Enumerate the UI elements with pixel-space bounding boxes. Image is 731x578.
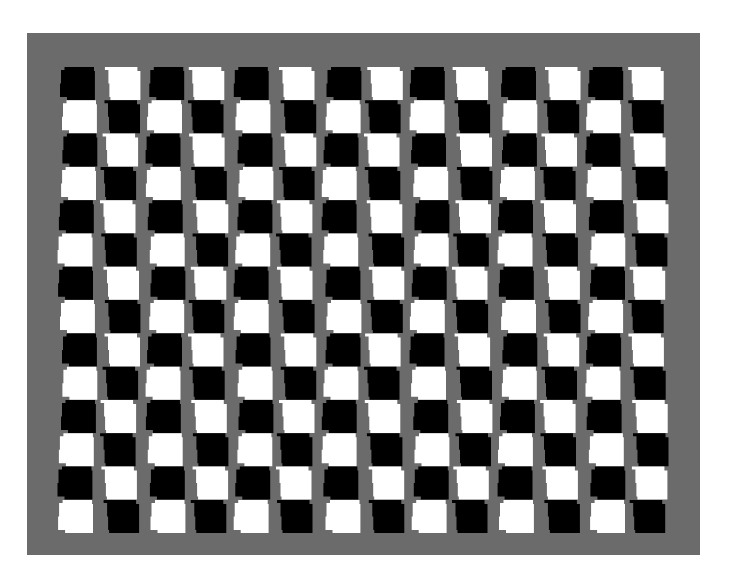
- checker-cell: [457, 400, 493, 433]
- checker-cell: [281, 367, 317, 400]
- checker-cell: [238, 200, 273, 233]
- checker-cell: [545, 67, 581, 100]
- checker-cell: [365, 400, 401, 433]
- checker-cell: [630, 500, 666, 533]
- checker-cell: [542, 234, 578, 267]
- checker-cell: [501, 67, 536, 100]
- checker-cell: [326, 333, 361, 366]
- checker-cell: [234, 500, 269, 533]
- checker-cell: [541, 200, 577, 233]
- checker-cell: [457, 167, 493, 200]
- checker-cell: [277, 200, 313, 233]
- checker-cell: [277, 267, 313, 300]
- checker-cell: [327, 300, 362, 333]
- checker-cell: [234, 267, 269, 300]
- checker-cell: [544, 333, 580, 366]
- checker-cell: [544, 500, 580, 533]
- checker-cell: [544, 100, 580, 133]
- checker-cell: [365, 333, 401, 366]
- checker-cell: [630, 134, 666, 167]
- checker-cell: [236, 100, 271, 133]
- checker-cell: [410, 67, 445, 100]
- checker-cell: [590, 500, 625, 533]
- checker-cell: [105, 300, 140, 333]
- checker-cell: [502, 333, 537, 366]
- checker-cell: [498, 433, 533, 466]
- checker-cell: [500, 400, 535, 433]
- checker-cell: [276, 234, 312, 267]
- checker-cell: [103, 367, 139, 400]
- checker-cell: [590, 234, 625, 267]
- checker-cell: [588, 67, 623, 100]
- checker-cell: [191, 400, 227, 433]
- checker-cell: [410, 300, 445, 333]
- checker-cell: [150, 467, 185, 500]
- checker-cell: [62, 367, 97, 400]
- checker-cell: [411, 367, 446, 400]
- checker-cell: [630, 367, 666, 400]
- checker-cell: [239, 400, 274, 433]
- checker-cell: [586, 333, 621, 366]
- checker-cell: [60, 300, 95, 333]
- checker-cell: [498, 234, 533, 267]
- checker-cell: [633, 433, 669, 466]
- illusion-canvas: [0, 0, 731, 578]
- checker-cell: [101, 234, 137, 267]
- checker-cell: [633, 200, 669, 233]
- checker-cell: [279, 400, 315, 433]
- checker-cell: [587, 400, 622, 433]
- checker-cell: [453, 300, 489, 333]
- checker-cell: [189, 300, 225, 333]
- checker-cell: [326, 100, 361, 133]
- checker-cell: [632, 167, 668, 200]
- checker-cell: [455, 100, 491, 133]
- checker-cell: [62, 100, 97, 133]
- checker-cell: [499, 500, 534, 533]
- checker-cell: [410, 333, 445, 366]
- checker-cell: [455, 333, 491, 366]
- checker-cell: [146, 167, 181, 200]
- checker-cell: [453, 467, 489, 500]
- checker-cell: [146, 134, 181, 167]
- checker-cell: [238, 367, 273, 400]
- checker-cell: [587, 167, 622, 200]
- checker-cell: [453, 67, 489, 100]
- checker-cell: [189, 67, 225, 100]
- checker-cell: [545, 300, 581, 333]
- checker-cell: [414, 467, 449, 500]
- checker-cell: [59, 200, 94, 233]
- checker-cell: [146, 367, 181, 400]
- checker-cell: [586, 367, 621, 400]
- checker-cell: [541, 433, 577, 466]
- checker-cell: [189, 367, 225, 400]
- checker-cell: [327, 67, 362, 100]
- checker-cell: [365, 167, 401, 200]
- checker-cell: [323, 234, 358, 267]
- checker-cell: [540, 400, 576, 433]
- checker-cell: [234, 300, 269, 333]
- checker-cell: [104, 500, 140, 533]
- checker-cell: [414, 234, 449, 267]
- checker-cell: [58, 234, 93, 267]
- checker-cell: [101, 167, 137, 200]
- checker-cell: [193, 200, 229, 233]
- checker-cell: [104, 267, 140, 300]
- checker-cell: [234, 67, 269, 100]
- checker-cell: [236, 333, 271, 366]
- checker-cell: [238, 134, 273, 167]
- checker-cell: [412, 500, 447, 533]
- checker-cell: [498, 200, 533, 233]
- checker-cell: [632, 234, 668, 267]
- checker-cell: [279, 67, 315, 100]
- checker-cell: [413, 167, 448, 200]
- checker-cell: [188, 100, 224, 133]
- checker-cell: [364, 367, 400, 400]
- checker-cell: [542, 367, 578, 400]
- checker-cell: [323, 467, 358, 500]
- checker-cell: [326, 500, 361, 533]
- checker-cell: [147, 333, 182, 366]
- checker-cell: [367, 67, 403, 100]
- checker-cell: [101, 467, 136, 500]
- checker-cell: [62, 134, 97, 167]
- checker-cell: [193, 467, 229, 500]
